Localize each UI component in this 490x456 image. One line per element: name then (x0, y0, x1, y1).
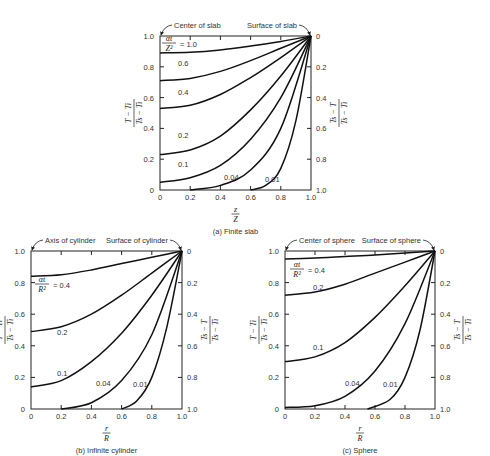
x-axis-label-denominator: R (357, 434, 363, 443)
y-tick-label-left: 0.2 (15, 373, 25, 382)
arrow-right-icon (170, 240, 181, 250)
y-axis-label-right-denominator: Ts − Ti (464, 319, 473, 341)
y-tick-label-left: 0.6 (15, 310, 25, 319)
chart-caption: (b) Infinite cylinder (76, 446, 138, 455)
series-label: 0.1 (57, 369, 67, 378)
series-label: 0.2 (178, 131, 188, 140)
series-label: 0.04 (96, 379, 111, 388)
series-curve-0.04 (190, 36, 311, 190)
arrow-left-icon (32, 240, 43, 250)
y-tick-label-left: 0.6 (144, 94, 154, 103)
annotation-left: Axis of cylinder (45, 236, 96, 245)
series-curve-0.04 (61, 251, 182, 409)
y-tick-label-left: 0.8 (15, 279, 25, 288)
y-tick-label-right: 0.8 (187, 373, 197, 382)
series-label: 0.1 (178, 160, 188, 169)
y-tick-label-left: 0 (21, 405, 25, 414)
y-axis-label-right-numerator: Ts − T (329, 102, 338, 123)
y-axis-label-left-denominator: Ts − Ti (6, 319, 15, 341)
x-tick-label: 0.2 (310, 412, 320, 421)
x-tick-label: 1.0 (430, 412, 440, 421)
chart-caption: (a) Finite slab (213, 227, 258, 236)
x-axis-label-numerator: r (358, 424, 362, 433)
param-denominator: R² (292, 270, 301, 279)
y-tick-label-right: 0.4 (440, 310, 450, 319)
y-tick-label-right: 1.0 (316, 186, 326, 195)
y-tick-label-right: 0 (187, 247, 191, 256)
x-tick-label: 0.8 (147, 412, 157, 421)
annotation-left: Center of slab (174, 21, 221, 30)
x-tick-label: 0.6 (370, 412, 380, 421)
y-tick-label-left: 1.0 (269, 247, 279, 256)
x-tick-label: 0.2 (56, 412, 66, 421)
series-curve-0.01 (122, 251, 182, 409)
series-label: = 0.4 (308, 266, 325, 275)
param-numerator: αt (39, 275, 46, 284)
y-axis-label-right-denominator: Ts − Ti (340, 102, 349, 124)
chart-finite-slab: 00.20.40.60.81.000.20.40.60.81.01.00.80.… (124, 21, 349, 236)
y-tick-label-left: 0.2 (144, 155, 154, 164)
series-label: = 1.0 (180, 40, 197, 49)
y-tick-label-left: 0.2 (269, 373, 279, 382)
annotation-right: Surface of cylinder (106, 236, 169, 245)
arrow-right-icon (423, 240, 434, 250)
series-curve-0.2 (31, 251, 182, 332)
y-axis-label-left: T − TiTs − Ti (124, 99, 144, 127)
x-axis-label-numerator: r (105, 424, 109, 433)
y-tick-label-left: 0.6 (269, 310, 279, 319)
y-tick-label-right: 0.2 (316, 63, 326, 72)
series-label: 0.04 (345, 379, 360, 388)
series-curve-0.4 (285, 251, 435, 259)
param-numerator: αt (294, 260, 301, 269)
x-axis-label-numerator: z (233, 205, 238, 214)
y-tick-label-left: 0.8 (269, 279, 279, 288)
y-axis-label-right: Ts − TTs − Ti (453, 316, 473, 344)
y-axis-label-left-numerator: T − Ti (124, 103, 133, 123)
y-tick-label-right: 0.6 (316, 124, 326, 133)
y-tick-label-left: 0.8 (144, 63, 154, 72)
x-tick-label: 0.8 (276, 193, 286, 202)
annotation-right: Surface of sphere (362, 236, 421, 245)
x-tick-label: 0.4 (86, 412, 96, 421)
y-tick-label-right: 0.6 (440, 342, 450, 351)
y-axis-label-right: Ts − TTs − Ti (329, 99, 349, 127)
series-label: 0.4 (178, 88, 188, 97)
chart-caption: (c) Sphere (342, 446, 377, 455)
y-tick-label-right: 0.8 (316, 155, 326, 164)
x-tick-label: 1.0 (177, 412, 187, 421)
y-tick-label-left: 1.0 (144, 32, 154, 41)
x-tick-label: 0.2 (185, 193, 195, 202)
series-label: 0.01 (383, 380, 398, 389)
chart-sphere: 00.20.40.60.81.000.20.40.60.81.01.00.80.… (249, 236, 473, 455)
x-axis-label-denominator: Z (233, 215, 238, 224)
y-tick-label-right: 0.2 (440, 279, 450, 288)
x-tick-label: 0 (283, 412, 287, 421)
y-axis-label-left-denominator: Ts − Ti (260, 319, 269, 341)
y-axis-label-right: Ts − TTs − Ti (200, 316, 220, 344)
y-axis-label-right-denominator: Ts − Ti (211, 319, 220, 341)
series-label: 0.2 (313, 283, 323, 292)
y-tick-label-left: 0.4 (269, 342, 279, 351)
x-tick-label: 0 (158, 193, 162, 202)
param-numerator: αt (166, 34, 173, 43)
y-tick-label-right: 0.4 (187, 310, 197, 319)
y-tick-label-right: 0.8 (440, 373, 450, 382)
x-tick-label: 0.8 (400, 412, 410, 421)
series-label: 0.01 (265, 175, 280, 184)
param-denominator: Z² (166, 44, 173, 53)
y-tick-label-right: 1.0 (187, 405, 197, 414)
y-tick-label-right: 0.4 (316, 94, 326, 103)
y-axis-label-right-numerator: Ts − T (453, 319, 462, 340)
x-tick-label: 0.6 (245, 193, 255, 202)
x-tick-label: 0.6 (116, 412, 126, 421)
y-axis-label-left-numerator: T − Ti (249, 320, 258, 340)
y-tick-label-right: 0.6 (187, 342, 197, 351)
series-label: 0.04 (224, 173, 239, 182)
series-label: = 0.4 (53, 281, 70, 290)
x-axis-label-denominator: R (103, 434, 109, 443)
series-label: 0.1 (313, 343, 323, 352)
x-tick-label: 0.4 (215, 193, 225, 202)
series-curve-0.4 (31, 251, 182, 276)
y-tick-label-left: 0 (150, 186, 154, 195)
param-denominator: R² (37, 285, 46, 294)
